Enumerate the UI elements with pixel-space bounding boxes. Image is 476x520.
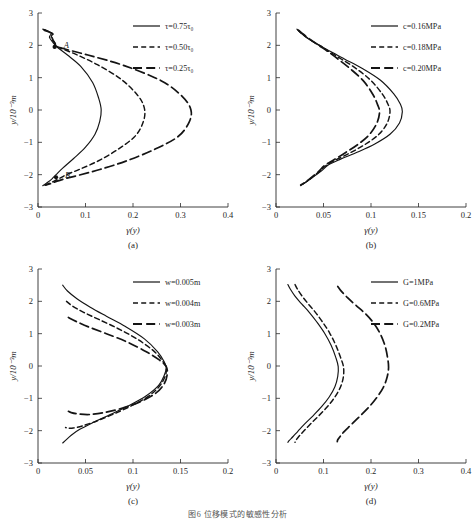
y-tick-label: 1 — [267, 329, 271, 339]
x-tick-label: 0.1 — [80, 210, 91, 220]
plot-d: 00.10.20.30.4−3−2−10123y/10⁻³mγ(y)(d)G=1… — [238, 256, 476, 514]
annotation-label: B — [65, 170, 70, 180]
x-tick-label: 0.2 — [128, 210, 139, 220]
x-tick-label: 0.2 — [461, 210, 472, 220]
panel-c: 00.050.10.150.2−3−2−10123y/10⁻³mγ(y)(c)w… — [0, 256, 238, 514]
y-tick-label: 3 — [267, 264, 271, 274]
y-tick-label: 3 — [29, 264, 33, 274]
y-tick-label: 3 — [29, 8, 33, 18]
y-tick-label: −3 — [262, 202, 271, 212]
y-tick-label: 0 — [29, 361, 33, 371]
y-tick-label: −1 — [262, 393, 271, 403]
curves-c — [63, 285, 168, 443]
x-tick-label: 0.1 — [366, 210, 377, 220]
legend-label: G=0.6MPa — [403, 299, 440, 308]
legend-label: G=0.2MPa — [403, 320, 440, 329]
legend-label: τ=0.25τ₀ — [165, 64, 194, 73]
legend-a: τ=0.75τ₀τ=0.50τ₀τ=0.25τ₀ — [133, 22, 194, 73]
series-curve — [45, 30, 192, 185]
annotation-label: A — [63, 40, 70, 50]
y-axis-label: y/10⁻³m — [8, 95, 18, 126]
curves-a — [43, 29, 192, 185]
series-curve — [68, 318, 167, 415]
series-curve — [337, 286, 388, 441]
x-tick-label: 0.4 — [223, 210, 234, 220]
legend-b: c=0.16MPac=0.18MPac=0.20MPa — [371, 22, 441, 73]
y-tick-label: 1 — [29, 73, 33, 83]
y-tick-label: 0 — [267, 361, 271, 371]
series-curve — [299, 30, 380, 185]
x-tick-label: 0.4 — [461, 466, 472, 476]
panel-label: (a) — [128, 240, 138, 250]
y-axis-label: y/10⁻³m — [246, 95, 256, 126]
series-curve — [288, 285, 338, 443]
x-axis-label: γ(y) — [126, 481, 140, 491]
y-tick-label: 2 — [29, 40, 33, 50]
series-curve — [297, 29, 402, 185]
y-tick-label: −1 — [24, 137, 33, 147]
x-tick-label: 0.1 — [318, 466, 329, 476]
y-tick-label: −2 — [24, 426, 33, 436]
series-curve — [298, 30, 390, 186]
x-tick-label: 0 — [274, 210, 278, 220]
y-tick-label: 1 — [267, 73, 271, 83]
axes-d: 00.10.20.30.4−3−2−10123 — [262, 264, 472, 476]
y-tick-label: 1 — [29, 329, 33, 339]
legend-label: G=1MPa — [403, 278, 433, 287]
y-tick-label: 2 — [267, 296, 271, 306]
axes-c: 00.050.10.150.2−3−2−10123 — [24, 264, 233, 476]
figure-sensitivity-analysis: 00.10.20.30.4−3−2−10123y/10⁻³mγ(y)(a)ABτ… — [0, 0, 476, 520]
legend-label: c=0.18MPa — [403, 43, 441, 52]
x-tick-label: 0 — [274, 466, 278, 476]
y-tick-label: −3 — [24, 202, 33, 212]
y-axis-label: y/10⁻³m — [246, 351, 256, 382]
panel-label: (c) — [128, 496, 138, 506]
y-tick-label: 3 — [267, 8, 271, 18]
x-axis-label: γ(y) — [364, 225, 378, 235]
legend-d: G=1MPaG=0.6MPaG=0.2MPa — [371, 278, 440, 329]
panel-b: 00.050.10.150.2−3−2−10123y/10⁻³mγ(y)(b)c… — [238, 0, 476, 258]
panel-a: 00.10.20.30.4−3−2−10123y/10⁻³mγ(y)(a)ABτ… — [0, 0, 238, 258]
y-tick-label: 2 — [29, 296, 33, 306]
axes-a: 00.10.20.30.4−3−2−10123 — [24, 8, 234, 220]
plot-a: 00.10.20.30.4−3−2−10123y/10⁻³mγ(y)(a)ABτ… — [0, 0, 238, 258]
curves-d — [288, 285, 389, 443]
legend-label: τ=0.50τ₀ — [165, 43, 194, 52]
legend-label: w=0.003m — [165, 320, 201, 329]
series-curve — [295, 285, 344, 443]
series-curve — [44, 30, 145, 186]
y-tick-label: −3 — [24, 458, 33, 468]
legend-label: c=0.16MPa — [403, 22, 441, 31]
annotation-marker — [53, 45, 57, 49]
x-tick-label: 0.3 — [413, 466, 424, 476]
x-tick-label: 0.3 — [175, 210, 186, 220]
y-tick-label: 0 — [29, 105, 33, 115]
plot-c: 00.050.10.150.2−3−2−10123y/10⁻³mγ(y)(c)w… — [0, 256, 238, 514]
series-curve — [66, 301, 167, 428]
y-tick-label: −3 — [262, 458, 271, 468]
y-tick-label: −2 — [24, 170, 33, 180]
plot-b: 00.050.10.150.2−3−2−10123y/10⁻³mγ(y)(b)c… — [238, 0, 476, 258]
curves-b — [297, 29, 402, 185]
x-axis-label: γ(y) — [364, 481, 378, 491]
panel-d: 00.10.20.30.4−3−2−10123y/10⁻³mγ(y)(d)G=1… — [238, 256, 476, 514]
x-tick-label: 0.2 — [366, 466, 377, 476]
legend-label: w=0.004m — [165, 299, 201, 308]
y-tick-label: −1 — [262, 137, 271, 147]
y-tick-label: 2 — [267, 40, 271, 50]
x-tick-label: 0.05 — [78, 466, 93, 476]
x-tick-label: 0.2 — [223, 466, 234, 476]
x-tick-label: 0.05 — [316, 210, 331, 220]
series-curve — [63, 285, 167, 443]
y-tick-label: −2 — [262, 426, 271, 436]
panel-label: (d) — [366, 496, 377, 506]
y-tick-label: −1 — [24, 393, 33, 403]
x-tick-label: 0.15 — [411, 210, 426, 220]
y-axis-label: y/10⁻³m — [8, 351, 18, 382]
legend-c: w=0.005mw=0.004mw=0.003m — [133, 278, 201, 329]
annotation-marker — [54, 175, 58, 179]
y-tick-label: 0 — [267, 105, 271, 115]
y-tick-label: −2 — [262, 170, 271, 180]
legend-label: w=0.005m — [165, 278, 201, 287]
panel-label: (b) — [366, 240, 377, 250]
